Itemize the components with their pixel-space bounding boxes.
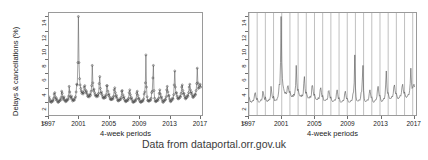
y-tick-label: 12 (241, 31, 247, 45)
plot-area-left (48, 12, 203, 116)
x-tick-mark (347, 116, 348, 119)
x-tick-mark (281, 116, 282, 119)
x-tick-label: 2009 (334, 120, 360, 127)
y-tick-label: 4 (41, 88, 47, 102)
x-axis-label-right: 4-week periods (228, 130, 428, 138)
x-tick-label: 2005 (96, 120, 122, 127)
x-tick-label: 2017 (401, 120, 427, 127)
plot-area-right (248, 12, 417, 116)
y-tick-label: 12 (41, 31, 47, 45)
y-tick-label: 14 (41, 16, 47, 30)
x-tick-mark (109, 116, 110, 119)
x-axis-label-left: 4-week periods (28, 130, 223, 138)
x-tick-mark (170, 116, 171, 119)
x-tick-mark (314, 116, 315, 119)
x-tick-mark (414, 116, 415, 119)
y-tick-label: 4 (241, 88, 247, 102)
x-tick-mark (200, 116, 201, 119)
y-tick-label: 8 (241, 59, 247, 73)
time-series-line-right (249, 13, 416, 115)
x-tick-mark (248, 116, 249, 119)
y-axis-label-left: Delays & cancellations (%) (12, 27, 20, 116)
x-tick-label: 2009 (126, 120, 152, 127)
x-tick-label: 1997 (235, 120, 261, 127)
x-tick-label: 2017 (187, 120, 213, 127)
x-tick-mark (381, 116, 382, 119)
x-tick-label: 2001 (65, 120, 91, 127)
x-tick-mark (48, 116, 49, 119)
time-series-line-left (49, 13, 202, 115)
y-tick-label: 2 (241, 102, 247, 116)
y-tick-label: 10 (41, 45, 47, 59)
x-tick-mark (78, 116, 79, 119)
y-tick-label: 6 (241, 73, 247, 87)
y-tick-label: 2 (41, 102, 47, 116)
y-tick-label: 10 (241, 45, 247, 59)
x-tick-label: 1997 (35, 120, 61, 127)
chart-panel-right: 02468101214 199720012005200920132017 4-w… (214, 0, 428, 136)
x-tick-label: 2005 (301, 120, 327, 127)
x-tick-label: 2001 (268, 120, 294, 127)
y-tick-label: 8 (41, 59, 47, 73)
x-tick-label: 2013 (368, 120, 394, 127)
y-tick-label: 6 (41, 73, 47, 87)
figure-caption: Data from dataportal.orr.gov.uk (0, 138, 428, 151)
x-tick-label: 2013 (157, 120, 183, 127)
x-tick-mark (139, 116, 140, 119)
y-tick-label: 14 (241, 16, 247, 30)
figure-root: Delays & cancellations (%) 02468101214 1… (0, 0, 428, 160)
chart-panel-left: Delays & cancellations (%) 02468101214 1… (0, 0, 214, 136)
